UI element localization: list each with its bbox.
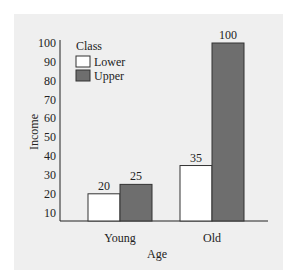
bar-young-lower: [88, 194, 120, 221]
y-tick-label: 70: [44, 93, 56, 107]
y-tick-label: 90: [44, 55, 56, 69]
bar-value-label: 35: [190, 151, 202, 165]
y-tick-label: 100: [38, 36, 56, 50]
bar-old-upper: [212, 43, 244, 221]
x-tick-label: Young: [104, 231, 135, 245]
bar-chart: 102030405060708090100Income2025Young3510…: [0, 0, 295, 275]
y-tick-label: 80: [44, 74, 56, 88]
legend-title: Class: [76, 39, 102, 53]
legend-label: Upper: [94, 69, 124, 83]
bar-value-label: 100: [219, 28, 237, 42]
y-tick-label: 60: [44, 111, 56, 125]
y-tick-label: 30: [44, 168, 56, 182]
x-tick-label: Old: [203, 231, 221, 245]
y-tick-label: 50: [44, 130, 56, 144]
bar-old-lower: [180, 166, 212, 221]
legend-label: Lower: [94, 55, 125, 69]
bar-young-upper: [120, 184, 152, 221]
x-axis-label: Age: [147, 247, 167, 261]
bar-value-label: 20: [98, 179, 110, 193]
legend-swatch-lower: [76, 56, 90, 67]
bar-value-label: 25: [130, 169, 142, 183]
y-tick-label: 40: [44, 149, 56, 163]
y-axis-label: Income: [27, 114, 41, 150]
y-tick-label: 10: [44, 206, 56, 220]
y-tick-label: 20: [44, 187, 56, 201]
legend-swatch-upper: [76, 70, 90, 81]
